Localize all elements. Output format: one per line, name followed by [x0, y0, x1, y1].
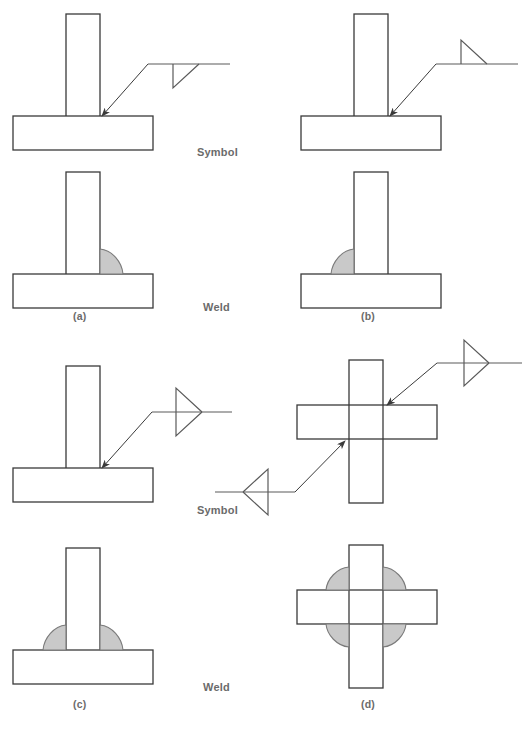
panel-d-weld — [297, 545, 437, 688]
panel-b-symbol — [301, 14, 518, 150]
panel-b-weld — [301, 172, 441, 308]
panel-c-weld-base-plate — [13, 650, 153, 684]
panel-letter-d: (d) — [361, 698, 375, 710]
panel-a-leader-line — [102, 64, 148, 116]
panel-b-symbol-base-plate — [301, 116, 441, 150]
panel-b-weld-vertical-plate — [354, 172, 388, 275]
panel-d-symbol-horizontal-plate — [297, 405, 437, 439]
panel-c-fillet-triangle-icon-above — [176, 388, 202, 412]
panel-b-symbol-vertical-plate — [354, 14, 388, 117]
panel-d-weld-bead-upper-left — [326, 567, 349, 590]
panel-d-leader-line-upper — [387, 363, 437, 405]
panel-a-weld-bead-right — [100, 249, 123, 274]
panel-letter-c: (c) — [73, 698, 86, 710]
panel-d-fillet-triangle-icon-upper-above — [464, 340, 489, 363]
panel-d-symbol — [215, 340, 522, 515]
panel-d-weld-bead-lower-right — [383, 624, 406, 647]
panel-c-weld — [13, 548, 153, 684]
panel-d-weld-bead-upper-right — [383, 567, 406, 590]
panel-b-weld-base-plate — [301, 274, 441, 308]
panel-a-weld-vertical-plate — [66, 172, 100, 275]
panel-d-fillet-triangle-icon-lower-above — [243, 469, 268, 492]
welding-symbol-figure: Symbol Weld Symbol Weld (a) (b) (c) (d) — [0, 0, 526, 730]
panel-a-symbol-vertical-plate — [66, 14, 100, 117]
panel-b-weld-bead-left — [331, 249, 354, 274]
panel-d-fillet-triangle-icon-upper-below — [464, 363, 489, 386]
panel-c-symbol-base-plate — [13, 468, 153, 502]
panel-a-fillet-triangle-icon — [173, 64, 199, 88]
panel-c-fillet-triangle-icon-below — [176, 412, 202, 436]
figure-drawing — [0, 0, 526, 730]
panel-c-weld-bead-left — [43, 625, 66, 650]
panel-letter-b: (b) — [361, 310, 375, 322]
panel-b-leader-line — [390, 64, 436, 116]
row-label-weld-top: Weld — [203, 301, 230, 313]
panel-d-weld-bead-lower-left — [326, 624, 349, 647]
panel-a-weld — [13, 172, 153, 308]
panel-c-symbol — [13, 366, 232, 502]
row-label-symbol-bottom: Symbol — [197, 504, 238, 516]
row-label-symbol-top: Symbol — [197, 146, 238, 158]
panel-d-leader-line-lower — [295, 441, 345, 492]
panel-d-weld-horizontal-plate — [297, 590, 437, 624]
panel-c-weld-vertical-plate — [66, 548, 100, 651]
panel-c-symbol-vertical-plate — [66, 366, 100, 469]
panel-d-fillet-triangle-icon-lower-below — [243, 492, 268, 515]
panel-b-fillet-triangle-icon — [461, 40, 487, 64]
panel-c-leader-line — [102, 412, 152, 468]
panel-a-symbol — [13, 14, 230, 150]
row-label-weld-bottom: Weld — [203, 681, 230, 693]
panel-a-symbol-base-plate — [13, 116, 153, 150]
panel-a-weld-base-plate — [13, 274, 153, 308]
panel-letter-a: (a) — [73, 310, 86, 322]
panel-c-weld-bead-right — [100, 625, 123, 650]
